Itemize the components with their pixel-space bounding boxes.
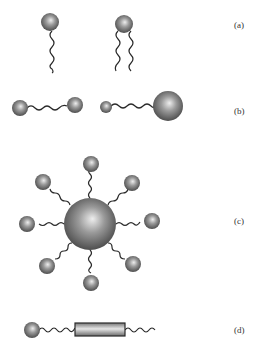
core-sphere [64,198,116,250]
head-sphere-right [67,97,83,113]
asymmetric-bolaamphiphile [100,91,183,121]
satellite-sphere [83,156,99,172]
tail [50,31,54,73]
small-head-sphere [100,101,112,113]
panel-a [41,13,133,73]
head-sphere [41,13,59,31]
satellite-sphere [35,174,51,190]
panel-label-a: (a) [234,20,244,30]
satellite-sphere [144,213,160,229]
satellite-sphere [125,256,141,272]
satellite-sphere [19,216,35,232]
single-tail-amphiphile [41,13,59,73]
symmetric-bolaamphiphile [12,97,83,116]
panel-c [19,156,160,291]
panel-d [24,322,155,338]
amphiphile-diagram [0,0,260,353]
tail-right [129,31,133,71]
head-sphere [24,322,40,338]
end-tail [125,328,155,332]
panel-label-d: (d) [234,325,245,335]
panel-b [12,91,183,121]
linker-tail [39,328,75,332]
large-head-sphere [153,91,183,121]
panel-label-c: (c) [234,216,244,226]
rod-segment [75,323,125,336]
panel-label-b: (b) [234,106,245,116]
satellite-sphere [83,275,99,291]
head-sphere [115,15,133,33]
satellite-sphere [39,258,55,274]
head-sphere-left [12,100,28,116]
double-tail-amphiphile [115,15,133,71]
tail-left [115,31,120,71]
satellite-sphere [124,175,140,191]
